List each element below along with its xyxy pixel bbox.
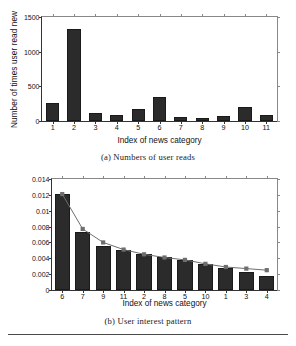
bar — [67, 29, 80, 121]
x-tick-mark-top — [185, 176, 186, 179]
chart-b-x-axis-label: Index of news category — [51, 299, 278, 308]
x-tick-mark — [117, 121, 118, 124]
y-tick-label: 0.01 — [36, 207, 50, 214]
figure-b: Ratio 00.0020.0040.0060.0080.010.0120.01… — [0, 168, 296, 324]
y-tick-mark — [49, 211, 52, 212]
chart-a-plot-axes: 0500100015001234567891011 — [41, 16, 278, 122]
x-tick-mark — [165, 290, 166, 293]
x-tick-mark — [267, 290, 268, 293]
x-tick-mark-top — [224, 14, 225, 17]
x-tick-label: 7 — [179, 124, 183, 131]
x-tick-mark — [245, 121, 246, 124]
x-tick-mark — [205, 290, 206, 293]
y-tick-mark — [49, 227, 52, 228]
x-tick-label: 2 — [72, 124, 76, 131]
bar — [75, 232, 90, 290]
y-tick-mark-right — [277, 274, 280, 275]
y-tick-label: 0.008 — [32, 223, 50, 230]
y-tick-mark-right — [277, 121, 280, 122]
x-tick-mark-top — [138, 14, 139, 17]
bar — [96, 246, 111, 290]
x-tick-mark-top — [246, 176, 247, 179]
x-tick-mark — [226, 290, 227, 293]
y-tick-mark — [49, 242, 52, 243]
x-tick-label: 5 — [136, 124, 140, 131]
x-tick-mark-top — [245, 14, 246, 17]
x-tick-mark-top — [267, 176, 268, 179]
x-tick-mark — [266, 121, 267, 124]
x-tick-mark-top — [181, 14, 182, 17]
bar — [153, 97, 166, 121]
y-tick-mark-right — [277, 290, 280, 291]
y-tick-mark — [49, 195, 52, 196]
x-tick-label: 1 — [51, 124, 55, 131]
x-tick-label: 6 — [158, 124, 162, 131]
y-tick-mark — [39, 86, 42, 87]
chart-b-plot-axes: 00.0020.0040.0060.0080.010.0120.01467911… — [51, 178, 278, 291]
bar — [136, 254, 151, 290]
x-tick-mark-top — [226, 176, 227, 179]
x-tick-mark-top — [103, 176, 104, 179]
bar — [116, 250, 131, 290]
chart-b-plot-area: 00.0020.0040.0060.0080.010.0120.01467911… — [52, 179, 277, 290]
x-tick-label: 4 — [115, 124, 119, 131]
y-tick-label: 0.012 — [32, 191, 50, 198]
x-tick-mark-top — [117, 14, 118, 17]
y-tick-label: 1000 — [24, 48, 40, 55]
y-tick-mark-right — [277, 195, 280, 196]
chart-a-x-axis-label: Index of news category — [41, 136, 278, 145]
chart-a-y-axis-label: Number of times user read new — [10, 11, 19, 128]
bar — [46, 103, 59, 121]
x-tick-mark — [224, 121, 225, 124]
y-tick-mark-right — [277, 17, 280, 18]
x-tick-mark — [62, 290, 63, 293]
y-tick-mark — [39, 17, 42, 18]
x-tick-mark — [95, 121, 96, 124]
y-tick-label: 0.002 — [32, 271, 50, 278]
y-tick-mark — [49, 179, 52, 180]
x-tick-mark — [160, 121, 161, 124]
y-tick-mark-right — [277, 52, 280, 53]
x-tick-mark-top — [144, 176, 145, 179]
bar — [55, 194, 70, 290]
y-tick-mark-right — [277, 211, 280, 212]
y-tick-label: 0.014 — [32, 176, 50, 183]
x-tick-mark — [185, 290, 186, 293]
figure-a-caption: (a) Numbers of user reads — [0, 152, 296, 162]
x-tick-label: 8 — [200, 124, 204, 131]
x-tick-mark — [144, 290, 145, 293]
figure-b-caption: (b) User interest pattern — [0, 316, 296, 326]
y-tick-mark — [49, 290, 52, 291]
x-tick-mark — [74, 121, 75, 124]
x-tick-mark — [246, 290, 247, 293]
x-tick-mark-top — [160, 14, 161, 17]
bar — [132, 109, 145, 121]
x-tick-mark-top — [266, 14, 267, 17]
x-tick-mark — [202, 121, 203, 124]
x-tick-mark-top — [74, 14, 75, 17]
bar — [218, 268, 233, 290]
page-footer-rule — [8, 334, 288, 335]
x-tick-label: 11 — [263, 124, 270, 131]
y-tick-label: 1500 — [24, 14, 40, 21]
x-tick-mark-top — [62, 176, 63, 179]
bar — [89, 113, 102, 121]
x-tick-mark — [83, 290, 84, 293]
bar — [177, 260, 192, 290]
x-tick-mark-top — [53, 14, 54, 17]
figure-page: Number of times user read new 0500100015… — [0, 0, 296, 346]
y-tick-label: 500 — [28, 83, 40, 90]
y-tick-mark — [49, 274, 52, 275]
y-tick-mark-right — [277, 227, 280, 228]
x-tick-mark-top — [95, 14, 96, 17]
y-tick-mark-right — [277, 179, 280, 180]
bar — [198, 264, 213, 290]
x-tick-mark-top — [165, 176, 166, 179]
x-tick-mark — [138, 121, 139, 124]
x-tick-mark-top — [205, 176, 206, 179]
bar — [239, 272, 254, 290]
y-tick-mark — [49, 258, 52, 259]
x-tick-label: 10 — [241, 124, 249, 131]
y-tick-mark-right — [277, 242, 280, 243]
y-tick-label: 0.006 — [32, 239, 50, 246]
